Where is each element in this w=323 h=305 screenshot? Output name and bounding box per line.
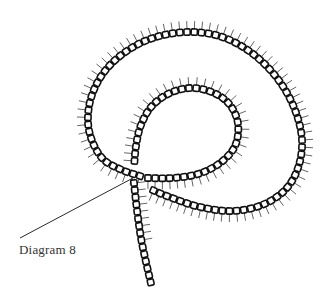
bead	[133, 201, 140, 208]
bead	[162, 31, 169, 38]
diagram-caption: Diagram 8	[19, 242, 76, 258]
bead	[131, 180, 138, 187]
bead	[176, 29, 183, 36]
bead	[299, 137, 306, 144]
bead	[135, 215, 142, 222]
bead	[141, 251, 148, 258]
bead	[132, 150, 139, 157]
bead	[166, 175, 173, 182]
bead-strands	[77, 21, 313, 286]
bead	[132, 143, 139, 150]
bead	[152, 175, 158, 181]
bead	[226, 208, 232, 214]
bead	[232, 139, 240, 147]
bead	[86, 128, 93, 135]
bead	[200, 86, 207, 93]
bead	[131, 158, 138, 165]
bead	[234, 133, 241, 140]
bead	[138, 237, 145, 244]
beadwork-diagram	[0, 0, 323, 305]
bead	[144, 265, 151, 272]
bead	[299, 144, 306, 151]
bead	[149, 186, 157, 194]
bead	[180, 173, 187, 180]
bead	[85, 121, 92, 128]
bead	[133, 136, 140, 143]
bead	[205, 30, 212, 37]
strand-tail	[131, 180, 155, 286]
bead	[135, 129, 143, 137]
bead	[198, 29, 205, 36]
bead	[145, 272, 152, 279]
bead	[132, 194, 139, 201]
leader-line	[20, 178, 133, 238]
bead	[85, 107, 92, 114]
bead	[145, 175, 151, 181]
bead	[294, 115, 302, 123]
bead	[298, 151, 305, 158]
bead	[136, 222, 143, 229]
bead	[240, 206, 247, 213]
bead	[173, 174, 180, 181]
bead	[193, 85, 200, 92]
bead	[197, 204, 204, 211]
bead	[142, 258, 149, 265]
bead	[191, 29, 197, 35]
bead	[147, 279, 154, 286]
bead	[169, 30, 176, 37]
bead	[235, 126, 241, 132]
bead	[187, 172, 194, 179]
bead	[131, 187, 138, 194]
bead	[134, 208, 141, 215]
bead	[296, 122, 303, 129]
bead	[212, 206, 219, 213]
strand-inner-loop	[124, 77, 250, 189]
bead	[155, 33, 163, 41]
bead	[298, 129, 305, 136]
bead	[219, 207, 226, 214]
bead	[184, 29, 190, 35]
bead	[159, 175, 165, 181]
strand-outer-loop	[77, 21, 313, 222]
bead	[85, 114, 91, 120]
bead	[247, 205, 254, 212]
bead	[86, 99, 93, 106]
bead	[137, 229, 144, 236]
bead	[204, 205, 211, 212]
bead	[233, 207, 240, 214]
bead	[186, 85, 193, 92]
bead	[178, 85, 185, 92]
bead	[139, 244, 146, 251]
